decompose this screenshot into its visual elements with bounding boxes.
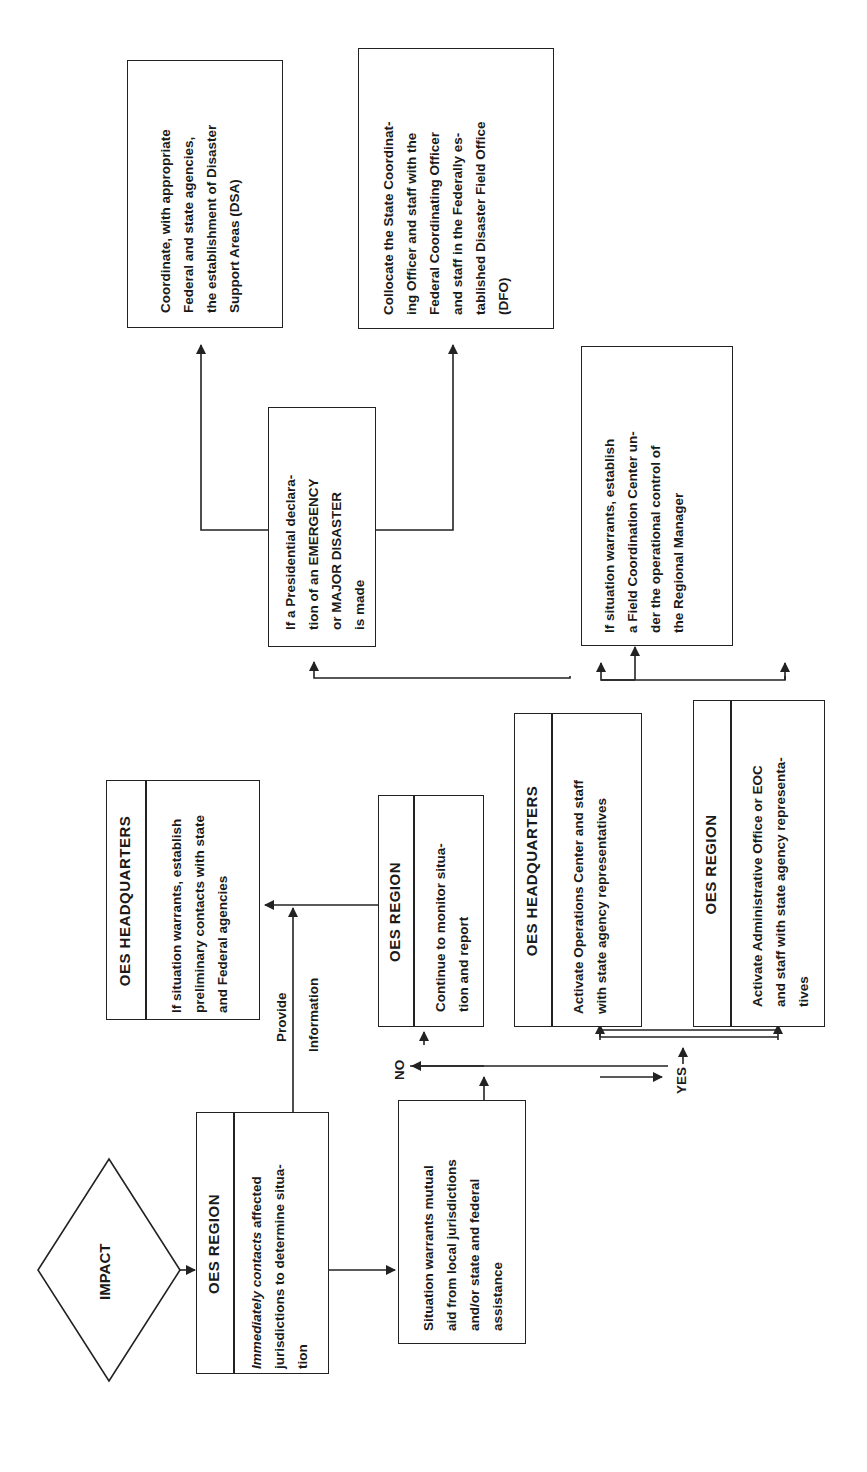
edge-label-yes: YES	[674, 1067, 689, 1094]
node-text: Situation warrants mutual aid from local…	[417, 1111, 509, 1331]
node-text: Continue to monitor situa- tion and repo…	[429, 802, 475, 1012]
node-text: If situation warrants, establish prelimi…	[165, 783, 234, 1013]
flowchart-canvas: IMPACT OES REGION Immediately contacts a…	[0, 0, 867, 1472]
edge-label-provide: Provide	[274, 992, 289, 1042]
node-presidential-declaration: If a Presidential declara- tion of an EM…	[268, 407, 376, 647]
italic-text: Immediately contacts	[249, 1232, 264, 1369]
node-oes-region-initial: OES REGION Immediately contacts affected…	[196, 1112, 329, 1374]
node-oes-hq-preliminary: OES HEADQUARTERS If situation warrants, …	[106, 780, 260, 1020]
node-text: Immediately contacts affected jurisdicti…	[245, 1119, 314, 1369]
node-text: Activate Operations Center and staff wit…	[567, 714, 613, 1014]
edge-label-no: NO	[392, 1060, 407, 1080]
node-header: OES REGION	[379, 796, 415, 1026]
header-label: OES REGION	[702, 701, 719, 1028]
node-body: Activate Administrative Office or EOC an…	[732, 701, 824, 1026]
node-mutual-aid-decision: Situation warrants mutual aid from local…	[398, 1100, 526, 1344]
header-label: OES REGION	[386, 796, 403, 1028]
node-header: OES HEADQUARTERS	[107, 781, 147, 1019]
node-text: Coordinate, with appropriate Federal and…	[154, 63, 246, 313]
node-field-coordination: If situation warrants, establish a Field…	[581, 346, 733, 646]
node-dfo: Collocate the State Coordinat- ing Offic…	[358, 48, 554, 329]
node-body: Activate Operations Center and staff wit…	[553, 714, 641, 1026]
node-dsa: Coordinate, with appropriate Federal and…	[127, 60, 283, 328]
header-label: OES REGION	[205, 1113, 222, 1375]
node-oes-region-monitor: OES REGION Continue to monitor situa- ti…	[378, 795, 484, 1027]
node-text: If situation warrants, establish a Field…	[598, 353, 690, 633]
edge-label-information: Information	[306, 978, 321, 1052]
node-body: Immediately contacts affected jurisdicti…	[235, 1113, 328, 1373]
node-body: Continue to monitor situa- tion and repo…	[415, 796, 483, 1026]
node-header: OES REGION	[694, 701, 732, 1026]
header-label: OES HEADQUARTERS	[116, 781, 133, 1021]
node-oes-region-activate: OES REGION Activate Administrative Offic…	[693, 700, 825, 1027]
node-text: Activate Administrative Office or EOC an…	[746, 707, 815, 1007]
node-oes-hq-activate: OES HEADQUARTERS Activate Operations Cen…	[514, 713, 642, 1027]
header-label: OES HEADQUARTERS	[523, 714, 540, 1028]
node-text: Collocate the State Coordinat- ing Offic…	[377, 55, 515, 315]
node-header: OES HEADQUARTERS	[515, 714, 553, 1026]
node-text: If a Presidential declara- tion of an EM…	[279, 420, 371, 630]
node-header: OES REGION	[197, 1113, 235, 1373]
node-body: If situation warrants, establish prelimi…	[147, 781, 259, 1019]
impact-label: IMPACT	[96, 1244, 113, 1300]
